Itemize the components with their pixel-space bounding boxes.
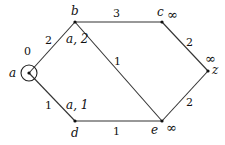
graph-diagram: a b c z d e 0 a, 2 ∞ ∞ a, 1 ∞ 2 1 3 1 1 … [0, 0, 225, 145]
node-b-label: b [71, 4, 79, 18]
node-c-label: c [157, 5, 164, 19]
node-b-tag: a, 2 [66, 32, 88, 46]
edge-b-e-weight: 1 [114, 55, 121, 68]
edge-e-z-weight: 2 [186, 96, 193, 109]
edge-c-z-weight: 2 [186, 36, 193, 49]
edge-a-d-weight: 1 [45, 99, 52, 112]
node-e [160, 119, 163, 122]
node-d-label: d [71, 126, 79, 140]
edge-a-d [29, 73, 75, 121]
node-e-tag: ∞ [166, 120, 177, 135]
node-a-tag: 0 [24, 45, 31, 58]
node-a-label: a [9, 66, 16, 80]
edge-a-b-weight: 2 [45, 34, 52, 47]
node-d [73, 119, 76, 122]
edge-c-z [162, 22, 208, 71]
edge-b-c-weight: 3 [113, 7, 120, 20]
edge-e-z [162, 71, 208, 121]
node-z [206, 69, 209, 72]
node-c [160, 20, 163, 23]
edge-a-b [29, 22, 75, 73]
edge-d-e-weight: 1 [113, 125, 120, 138]
node-d-tag: a, 1 [66, 98, 88, 112]
node-b [73, 20, 76, 23]
node-c-tag: ∞ [167, 7, 178, 22]
node-e-label: e [151, 123, 158, 137]
node-z-tag: ∞ [205, 51, 216, 66]
node-a [27, 71, 30, 74]
